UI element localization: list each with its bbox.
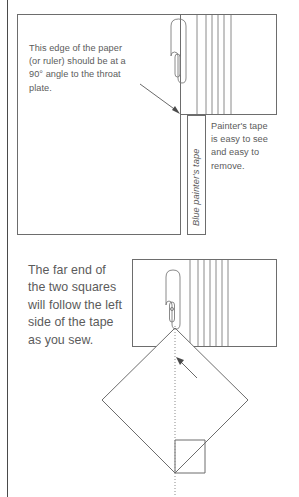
presser-foot-bottom — [166, 270, 180, 329]
callout-arrow-top-head — [172, 106, 180, 114]
callout-arrow-top — [140, 84, 177, 111]
figure-canvas: This edge of the paper (or ruler) should… — [0, 0, 299, 497]
diagram-vector-layer — [0, 0, 299, 497]
presser-foot-top — [171, 19, 186, 83]
needle-slot-top — [175, 54, 180, 77]
